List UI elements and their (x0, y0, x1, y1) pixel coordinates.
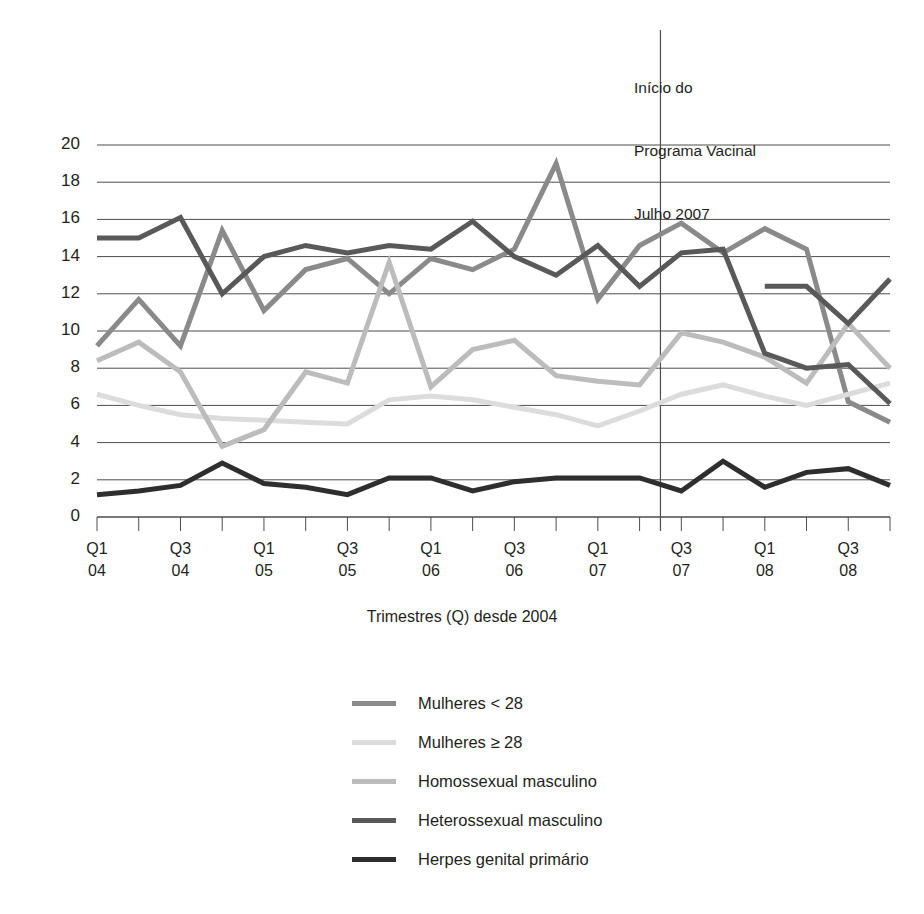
x-axis-tick-label: Q306 (492, 538, 536, 582)
legend-swatch-icon (352, 740, 396, 745)
x-tick-quarter: Q1 (743, 538, 787, 560)
y-axis-tick-label: 12 (34, 283, 80, 303)
legend-label: Herpes genital primário (418, 850, 589, 869)
x-tick-year: 04 (158, 560, 202, 582)
y-axis-tick-label: 10 (34, 320, 80, 340)
x-axis-tick-label: Q307 (659, 538, 703, 582)
x-axis-tick-label: Q107 (576, 538, 620, 582)
x-tick-quarter: Q3 (325, 538, 369, 560)
x-tick-year: 05 (325, 560, 369, 582)
y-axis-tick-label: 18 (34, 171, 80, 191)
x-axis-tick-label: Q106 (409, 538, 453, 582)
x-tick-year: 07 (659, 560, 703, 582)
vaccine-program-annotation: Início do Programa Vacinal Julho 2007 (634, 35, 756, 266)
x-axis-tick-label: Q308 (826, 538, 870, 582)
legend-item[interactable]: Homossexual masculino (352, 762, 772, 801)
x-axis-title: Trimestres (Q) desde 2004 (0, 608, 924, 626)
y-axis-tick-label: 0 (34, 506, 80, 526)
x-tick-year: 05 (242, 560, 286, 582)
legend-swatch-icon (352, 857, 396, 862)
x-tick-year: 06 (409, 560, 453, 582)
annotation-line-1: Início do (634, 77, 756, 98)
x-tick-quarter: Q3 (492, 538, 536, 560)
y-axis-tick-label: 4 (34, 432, 80, 452)
legend-swatch-icon (352, 818, 396, 823)
legend-label: Mulheres ≥ 28 (418, 733, 522, 752)
x-axis-tick-label: Q105 (242, 538, 286, 582)
legend-label: Mulheres < 28 (418, 694, 523, 713)
y-axis-tick-label: 20 (34, 134, 80, 154)
legend-swatch-icon (352, 779, 396, 784)
y-axis-tick-label: 16 (34, 208, 80, 228)
x-tick-year: 08 (743, 560, 787, 582)
legend-item[interactable]: Mulheres ≥ 28 (352, 723, 772, 762)
y-axis-tick-label: 8 (34, 357, 80, 377)
x-tick-year: 08 (826, 560, 870, 582)
legend-item[interactable]: Heterossexual masculino (352, 801, 772, 840)
x-tick-quarter: Q3 (659, 538, 703, 560)
x-axis-tick-label: Q108 (743, 538, 787, 582)
x-tick-quarter: Q3 (158, 538, 202, 560)
legend-item[interactable]: Mulheres < 28 (352, 684, 772, 723)
legend-swatch-icon (352, 701, 396, 706)
x-tick-year: 06 (492, 560, 536, 582)
x-tick-year: 07 (576, 560, 620, 582)
legend-label: Homossexual masculino (418, 772, 597, 791)
x-axis-tick-label: Q104 (75, 538, 119, 582)
y-axis-tick-label: 14 (34, 246, 80, 266)
annotation-line-3: Julho 2007 (634, 203, 756, 224)
y-axis-tick-label: 2 (34, 469, 80, 489)
x-axis-tick-label: Q304 (158, 538, 202, 582)
chart-figure: 02468101214161820 Q104Q304Q105Q305Q106Q3… (0, 0, 924, 914)
x-tick-quarter: Q1 (75, 538, 119, 560)
x-tick-quarter: Q1 (409, 538, 453, 560)
y-axis-tick-label: 6 (34, 394, 80, 414)
x-tick-quarter: Q1 (242, 538, 286, 560)
chart-legend: Mulheres < 28Mulheres ≥ 28Homossexual ma… (352, 684, 772, 879)
x-tick-year: 04 (75, 560, 119, 582)
x-tick-quarter: Q3 (826, 538, 870, 560)
x-tick-quarter: Q1 (576, 538, 620, 560)
legend-item[interactable]: Herpes genital primário (352, 840, 772, 879)
legend-label: Heterossexual masculino (418, 811, 602, 830)
annotation-line-2: Programa Vacinal (634, 140, 756, 161)
x-axis-tick-label: Q305 (325, 538, 369, 582)
